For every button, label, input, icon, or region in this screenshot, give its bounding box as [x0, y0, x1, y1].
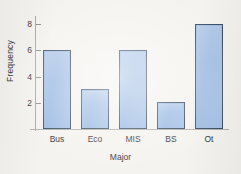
bar-series: [36, 18, 229, 129]
bar-sheen: [159, 104, 183, 127]
bar-mis: [119, 50, 147, 129]
x-tick-label-bs: BS: [153, 134, 189, 144]
bar-ot: [195, 24, 223, 129]
bar-eco: [81, 89, 109, 129]
bar-bus: [43, 50, 71, 129]
bar-sheen: [121, 52, 145, 127]
x-tick-label-ot: Ot: [191, 134, 227, 144]
bar-sheen: [83, 91, 107, 127]
y-tick-label-8: 8: [20, 20, 32, 29]
x-tick-label-mis: MIS: [115, 134, 151, 144]
y-tick-label-4: 4: [20, 73, 32, 82]
x-tick-label-bus: Bus: [39, 134, 75, 144]
y-tick-label-6: 6: [20, 46, 32, 55]
bar-sheen: [197, 26, 221, 127]
bar-chart-figure: 8 6 4 2 Bus Eco MIS BS Ot Major Fr: [0, 0, 241, 174]
y-tick-label-2: 2: [20, 99, 32, 108]
x-tick-label-eco: Eco: [77, 134, 113, 144]
bar-bs: [157, 102, 185, 129]
bar-sheen: [45, 52, 69, 127]
x-axis-category-labels: Bus Eco MIS BS Ot: [36, 134, 229, 148]
x-axis-title: Major: [0, 152, 241, 162]
y-axis-title: Frequency: [5, 29, 15, 93]
